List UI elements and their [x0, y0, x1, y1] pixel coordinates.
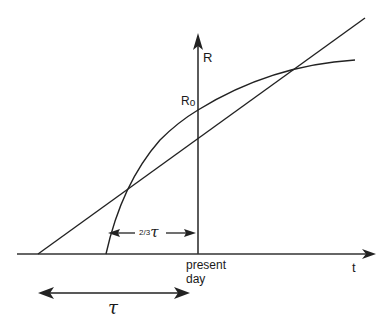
short-interval-label: 2/3τ	[139, 224, 158, 240]
r0-label: Ro	[181, 95, 195, 107]
short-interval-tau: τ	[150, 223, 158, 241]
tangent-line	[38, 18, 365, 254]
present-day-label-line2: day	[186, 273, 205, 285]
r0-label-main: R	[181, 94, 190, 108]
y-axis-label: R	[203, 51, 212, 64]
present-day-label-line1: present	[186, 259, 226, 271]
r0-label-sub: o	[190, 97, 196, 108]
short-interval-fraction: 2/3	[139, 228, 150, 237]
x-axis-label: t	[352, 261, 356, 274]
long-interval-label: τ	[108, 299, 118, 317]
